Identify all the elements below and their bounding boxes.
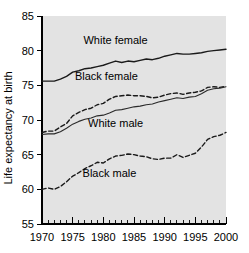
y-tick-label: 75 [22,79,34,91]
y-tick-label: 65 [22,149,34,161]
series-label-black-female: Black female [75,70,138,82]
y-tick-label: 60 [22,183,34,195]
y-axis-title: Life expectancy at birth [2,71,14,184]
series-label-white-male: White male [88,117,143,129]
life-expectancy-chart: 55606570758085 1970197519801985199019952… [0,0,249,253]
y-tick-label: 70 [22,114,34,126]
series-label-black-male: Black male [83,167,137,179]
x-tick-label: 1985 [122,231,146,243]
x-tick-label: 2000 [214,231,238,243]
x-tick-label: 1975 [60,231,84,243]
x-tick-label: 1970 [30,231,54,243]
x-tick-label: 1995 [183,231,207,243]
series-label-white-female: White female [83,34,147,46]
y-tick-label: 80 [22,45,34,57]
chart-svg: 55606570758085 1970197519801985199019952… [0,0,249,253]
y-axis: 55606570758085 [22,10,42,230]
y-tick-label: 85 [22,10,34,22]
y-tick-label: 55 [22,218,34,230]
x-tick-label: 1980 [91,231,115,243]
x-tick-label: 1990 [152,231,176,243]
